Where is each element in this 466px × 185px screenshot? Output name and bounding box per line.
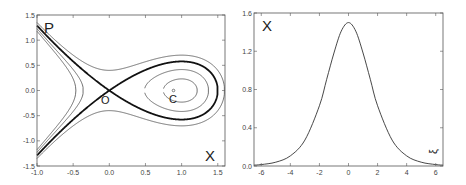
x-tick-label: 0 [347, 169, 351, 176]
x-tick-label: -0.5 [67, 169, 79, 176]
y-tick-label: 1.6 [242, 10, 252, 17]
x-tick-label: -1.0 [31, 169, 43, 176]
y-tick-label: 0.8 [242, 86, 252, 93]
left-ylabel-p: P [44, 19, 54, 36]
phase-curves [37, 22, 224, 158]
y-tick-label: -1.0 [23, 137, 35, 144]
soliton-curve [254, 23, 443, 166]
y-tick-label: 1.2 [242, 48, 252, 55]
left-phase-portrait: -1.0-0.50.00.51.01.5-1.5-1.0-0.50.00.51.… [23, 12, 225, 177]
center-point-marker [172, 89, 175, 92]
y-tick-label: 1.0 [25, 37, 35, 44]
x-tick-label: 0.5 [141, 169, 151, 176]
y-tick-label: -1.5 [23, 163, 35, 170]
y-tick-label: -0.5 [23, 112, 35, 119]
x-tick-label: -2 [316, 169, 322, 176]
right-xlabel-xi: ξ [427, 149, 439, 154]
y-tick-label: 0.4 [242, 124, 252, 131]
right-ylabel-x: X [262, 17, 272, 34]
saddle-label-o: O [101, 94, 110, 106]
x-tick-label: 2 [376, 169, 380, 176]
right-soliton-plot: -6-4-202460.00.40.81.21.6 X ξ [242, 10, 443, 177]
right-axis-ticks: -6-4-202460.00.40.81.21.6 [242, 10, 443, 177]
x-tick-label: 6 [434, 169, 438, 176]
x-tick-label: 0.0 [104, 169, 114, 176]
x-tick-label: -4 [287, 169, 293, 176]
level-curve [145, 70, 209, 112]
x-tick-label: 4 [405, 169, 409, 176]
y-tick-label: 0.0 [25, 87, 35, 94]
left-xlabel-x: X [205, 147, 215, 164]
x-tick-label: 1.0 [177, 169, 187, 176]
left-axis-ticks: -1.0-0.50.00.51.01.5-1.5-1.0-0.50.00.51.… [23, 12, 225, 177]
y-tick-label: 1.5 [25, 12, 35, 19]
right-plot-frame [254, 13, 443, 166]
separatrix-curve [37, 26, 217, 156]
level-curve [37, 31, 76, 150]
figure: -1.0-0.50.00.51.01.5-1.5-1.0-0.50.00.51.… [0, 0, 466, 185]
x-tick-label: 1.5 [213, 169, 223, 176]
y-tick-label: 0.5 [25, 62, 35, 69]
y-tick-label: 0.0 [242, 163, 252, 170]
level-curve [37, 22, 224, 158]
x-tick-label: -6 [258, 169, 264, 176]
center-label-c: C [169, 93, 177, 105]
